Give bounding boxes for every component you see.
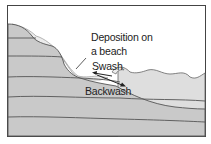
cross-section-svg: Deposition on a beach Swash Backwash bbox=[0, 0, 211, 144]
deposition-label-line1: Deposition on bbox=[91, 31, 153, 43]
backwash-label: Backwash bbox=[85, 85, 132, 97]
beach-deposition-diagram: Deposition on a beach Swash Backwash bbox=[0, 0, 211, 144]
deposition-label-line2: a beach bbox=[91, 45, 127, 57]
swash-label: Swash bbox=[92, 60, 123, 72]
